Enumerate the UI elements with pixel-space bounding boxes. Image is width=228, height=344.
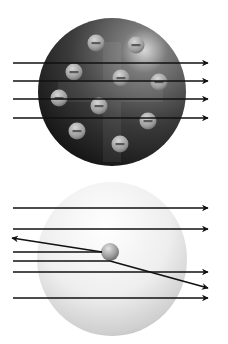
minus-sign-icon [73, 130, 82, 132]
minus-sign-icon [144, 120, 153, 122]
minus-sign-icon [132, 44, 141, 46]
electron [51, 90, 68, 107]
minus-sign-icon [116, 143, 125, 145]
electron [66, 64, 83, 81]
diagram-canvas [0, 0, 228, 344]
electron [128, 37, 145, 54]
electron [91, 98, 108, 115]
electron [140, 113, 157, 130]
atom-models-diagram [0, 0, 228, 344]
minus-sign-icon [70, 71, 79, 73]
thomson-panel [13, 18, 208, 166]
minus-sign-icon [95, 105, 104, 107]
electron [151, 74, 168, 91]
nucleus [101, 243, 119, 261]
electron [69, 123, 86, 140]
electron [88, 35, 105, 52]
rutherford-panel [12, 182, 208, 336]
minus-sign-icon [92, 42, 101, 44]
electron [113, 70, 130, 87]
minus-sign-icon [117, 77, 126, 79]
electron [112, 136, 129, 153]
